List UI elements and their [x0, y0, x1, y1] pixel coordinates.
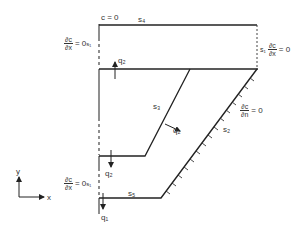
- label-s5: s₅: [128, 190, 135, 198]
- label-q2-diag: q₂: [173, 127, 181, 135]
- axis-label-x: x: [47, 194, 51, 202]
- label-s2: s₂: [223, 126, 230, 134]
- axes-indicator: [19, 177, 44, 197]
- condition-right: s₁ ∂c∂x = 0: [260, 42, 290, 57]
- label-s3: s₃: [153, 103, 160, 111]
- condition-left-upper: ∂c∂x = 0 s₁: [64, 36, 91, 51]
- hatch-marks-s2: [166, 78, 254, 194]
- label-q2-down: q₂: [105, 170, 113, 178]
- inner-boundary-s3: [99, 69, 190, 156]
- label-s4: s₄: [138, 16, 145, 24]
- condition-normal: ∂c∂n = 0: [240, 103, 263, 118]
- label-q2-up: q₂: [118, 57, 126, 65]
- condition-left-lower: ∂c∂x = 0 s₁: [64, 176, 91, 191]
- label-q1: q₁: [101, 214, 108, 222]
- axis-label-y: y: [16, 168, 20, 176]
- condition-c-zero: c = 0: [101, 14, 119, 22]
